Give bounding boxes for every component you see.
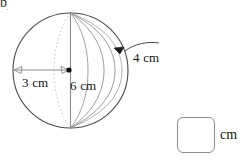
arc-leader-arrowhead — [114, 47, 124, 54]
arc-label: 4 cm — [133, 51, 159, 64]
sphere-center-dot — [66, 67, 71, 72]
question-figure-panel: b) 3 cm 6 cm 4 cm cm — [0, 0, 250, 165]
radius-label: 3 cm — [22, 76, 48, 89]
answer-input[interactable] — [177, 117, 215, 153]
answer-unit-label: cm — [220, 127, 237, 143]
meridian-arc-1 — [71, 13, 89, 128]
meridian-arc-2 — [71, 13, 105, 128]
meridian-arc-3 — [71, 13, 116, 128]
answer-row: cm — [177, 117, 237, 153]
diameter-label: 6 cm — [70, 79, 96, 92]
